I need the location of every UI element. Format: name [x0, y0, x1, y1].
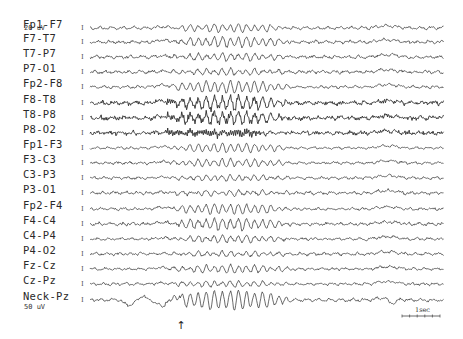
channel-label: Fz-Cz	[23, 260, 56, 270]
channel-label: F7-T7	[23, 33, 56, 43]
eeg-trace	[90, 250, 444, 257]
eeg-trace	[90, 67, 444, 75]
calibration-mark: I	[81, 130, 84, 137]
calibration-mark: I	[81, 39, 84, 46]
calibration-mark: I	[81, 236, 84, 243]
calibration-label-top: 20 uV	[24, 25, 45, 32]
channel-label: P8-O2	[23, 124, 56, 134]
eeg-trace	[90, 280, 444, 287]
eeg-trace	[90, 189, 444, 197]
eeg-trace	[90, 36, 444, 48]
time-scale-bar	[402, 315, 440, 318]
calibration-mark: I	[81, 221, 84, 228]
calibration-mark: I	[81, 206, 84, 213]
eeg-trace	[90, 143, 444, 153]
channel-label: F4-C4	[23, 215, 56, 225]
channel-label: P4-O2	[23, 245, 56, 255]
channel-label: P7-O1	[23, 63, 56, 73]
event-marker-arrow-icon: ↑	[176, 319, 185, 332]
calibration-mark: I	[81, 266, 84, 273]
eeg-trace	[90, 264, 444, 273]
calibration-mark: I	[81, 145, 84, 152]
eeg-trace	[90, 158, 444, 167]
calibration-mark: I	[81, 84, 84, 91]
calibration-mark: I	[81, 190, 84, 197]
eeg-trace	[90, 80, 444, 93]
calibration-mark: I	[81, 69, 84, 76]
eeg-trace	[90, 94, 444, 112]
channel-label: F3-C3	[23, 154, 56, 164]
calibration-mark: I	[81, 160, 84, 167]
channel-label: T8-P8	[23, 109, 56, 119]
eeg-trace	[90, 235, 444, 243]
channel-label: Fp2-F4	[23, 200, 63, 210]
eeg-trace-canvas: ↑	[0, 0, 463, 339]
calibration-mark: I	[81, 175, 84, 182]
channel-label: Cz-Pz	[23, 275, 56, 285]
eeg-trace	[90, 128, 444, 139]
eeg-trace	[90, 290, 444, 310]
calibration-mark: I	[81, 297, 84, 304]
calibration-mark: I	[81, 115, 84, 122]
time-scale-label: 1sec	[415, 306, 430, 314]
eeg-traces	[90, 24, 444, 310]
eeg-trace	[90, 174, 444, 181]
channel-label: C3-P3	[23, 169, 56, 179]
eeg-trace	[90, 218, 444, 232]
channel-label: Neck-Pz	[23, 291, 69, 301]
channel-label: F8-T8	[23, 94, 56, 104]
eeg-trace	[90, 110, 444, 125]
channel-label: Fp1-F3	[23, 139, 63, 149]
channel-label: Fp2-F8	[23, 78, 63, 88]
calibration-mark: I	[81, 25, 84, 32]
channel-label: P3-O1	[23, 184, 56, 194]
channel-label: T7-P7	[23, 48, 56, 58]
calibration-mark: I	[81, 54, 84, 61]
calibration-mark: I	[81, 281, 84, 288]
eeg-trace	[90, 52, 444, 61]
calibration-label-bottom: 50 uV	[24, 304, 45, 311]
channel-label: C4-P4	[23, 230, 56, 240]
eeg-trace	[90, 204, 444, 215]
eeg-trace	[90, 24, 444, 33]
calibration-mark: I	[81, 251, 84, 258]
calibration-mark: I	[81, 100, 84, 107]
